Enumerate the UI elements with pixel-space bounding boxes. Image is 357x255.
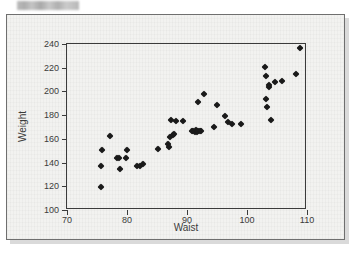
plot-frame: 100120140160180200220240 708090100110 bbox=[66, 43, 306, 209]
screenshot-root: Weight 100120140160180200220240 70809010… bbox=[0, 0, 357, 255]
scatter-point bbox=[195, 99, 202, 106]
y-tick-mark bbox=[62, 139, 67, 140]
scatter-point bbox=[292, 71, 299, 78]
scatter-point bbox=[228, 120, 235, 127]
scatter-point bbox=[237, 120, 244, 127]
y-tick-label: 120 bbox=[44, 182, 59, 191]
y-tick-mark bbox=[62, 186, 67, 187]
scatter-point bbox=[263, 95, 270, 102]
scatter-point bbox=[122, 155, 129, 162]
y-tick-mark bbox=[62, 44, 67, 45]
y-tick-label: 240 bbox=[44, 40, 59, 49]
scatter-point bbox=[165, 144, 172, 151]
y-tick-label: 180 bbox=[44, 111, 59, 120]
scatter-point bbox=[97, 162, 104, 169]
redacted-caption-bar bbox=[17, 1, 79, 10]
scatter-point bbox=[123, 146, 130, 153]
scatter-point bbox=[97, 183, 104, 190]
scatter-point bbox=[179, 118, 186, 125]
scatter-point bbox=[296, 44, 303, 51]
y-axis-title-label: Weight bbox=[17, 111, 28, 142]
scatter-point bbox=[278, 77, 285, 84]
scatter-point bbox=[264, 104, 271, 111]
scatter-point bbox=[117, 165, 124, 172]
scatter-point bbox=[213, 101, 220, 108]
y-tick-mark bbox=[62, 91, 67, 92]
y-tick-label: 200 bbox=[44, 87, 59, 96]
y-tick-label: 100 bbox=[44, 206, 59, 215]
y-tick-mark bbox=[62, 115, 67, 116]
y-tick-mark bbox=[62, 163, 67, 164]
scatter-point bbox=[210, 123, 217, 130]
scatter-point bbox=[267, 116, 274, 123]
y-axis-title: Weight bbox=[15, 43, 29, 209]
scatter-point bbox=[106, 133, 113, 140]
y-tick-mark bbox=[62, 68, 67, 69]
figure-card: Weight 100120140160180200220240 70809010… bbox=[6, 14, 345, 240]
y-tick-label: 160 bbox=[44, 134, 59, 143]
scatter-point bbox=[155, 145, 162, 152]
scatter-point bbox=[262, 72, 269, 79]
scatter-point bbox=[99, 146, 106, 153]
y-tick-label: 140 bbox=[44, 158, 59, 167]
y-tick-label: 220 bbox=[44, 63, 59, 72]
scatter-point bbox=[261, 63, 268, 70]
scatter-point bbox=[200, 91, 207, 98]
x-axis-title: Waist bbox=[66, 222, 306, 233]
